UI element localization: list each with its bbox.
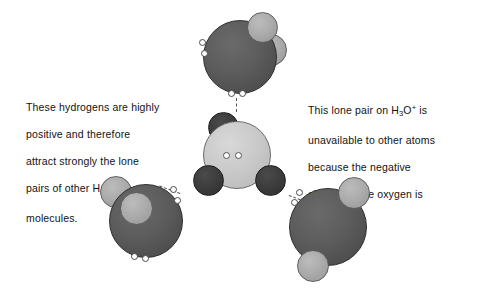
annotation-right-line-1: This lone pair on H3O+ is <box>308 104 427 116</box>
molecular-diagram: These hydrogens are highly positive and … <box>0 0 477 292</box>
water-lower-right-hydrogen-lower <box>297 250 329 282</box>
annotation-right-line-1-mid: O <box>403 104 411 116</box>
annotation-right-line-3: because the negative <box>308 161 411 173</box>
annotation-left-line-4-pre: pairs of other H <box>26 182 100 194</box>
hydronium-hydrogen-lower-left <box>193 165 224 196</box>
water-top-lone-pair-left-dot-2 <box>201 50 208 57</box>
water-lower-left-lone-pair-bottom-dot-2 <box>142 255 149 262</box>
annotation-right-line-1-post: is <box>416 104 427 116</box>
water-lower-left-lone-pair-right-dot-2 <box>174 197 181 204</box>
hydrogen-bond-top <box>236 98 237 112</box>
annotation-left-line-2: positive and therefore <box>26 128 130 140</box>
water-lower-right-hydrogen-upper <box>338 177 370 209</box>
water-top-lone-pair-left-dot-1 <box>199 39 206 46</box>
water-lower-left-lone-pair-right-dot-1 <box>170 186 177 193</box>
hydronium-hydrogen-lower-right <box>255 165 286 196</box>
water-lower-left-lone-pair-bottom-dot-1 <box>131 253 138 260</box>
water-top-lone-pair-bottom-dot-2 <box>239 90 246 97</box>
annotation-right-line-1-pre: This lone pair on H <box>308 104 399 116</box>
water-lower-right-lone-pair-dot-1 <box>296 189 303 196</box>
water-top-hydrogen-front <box>247 12 278 43</box>
water-lower-right-lone-pair-dot-2 <box>291 199 298 206</box>
hydronium-lone-pair-dot-2 <box>235 152 242 159</box>
water-top-lone-pair-bottom-dot-1 <box>228 90 235 97</box>
annotation-left-line-1: These hydrogens are highly <box>26 101 159 113</box>
annotation-right-line-2: unavailable to other atoms <box>308 134 435 146</box>
hydronium-lone-pair-dot-1 <box>223 152 230 159</box>
annotation-left-line-5: molecules. <box>26 212 78 224</box>
annotation-left-line-3: attract strongly the lone <box>26 155 139 167</box>
water-lower-left-hydrogen-front <box>120 192 153 225</box>
